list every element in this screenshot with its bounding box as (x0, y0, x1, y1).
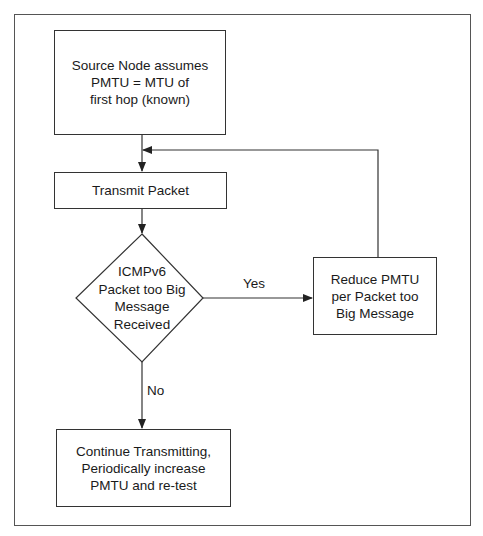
decision-node-label: ICMPv6 Packet too Big Message Received (86, 256, 198, 340)
edge-label-no: No (147, 383, 164, 399)
reduce-node: Reduce PMTU per Packet too Big Message (313, 257, 437, 335)
continue-node: Continue Transmitting, Periodically incr… (56, 429, 231, 507)
start-node: Source Node assumes PMTU = MTU of first … (54, 30, 226, 135)
transmit-node: Transmit Packet (54, 172, 227, 209)
edge-label-yes: Yes (243, 276, 265, 292)
